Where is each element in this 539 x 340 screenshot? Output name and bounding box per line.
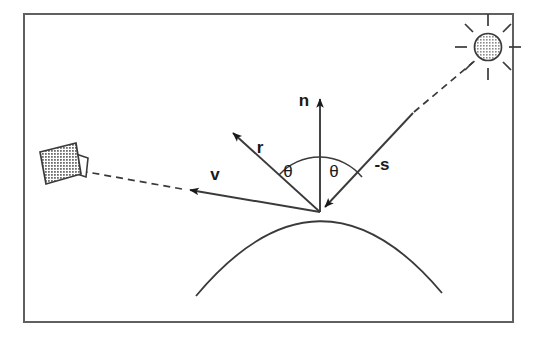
label-r: r — [257, 138, 264, 157]
label-v: v — [210, 165, 220, 184]
diagram-canvas: n r v -s θ θ — [0, 0, 539, 340]
figure-root: n r v -s θ θ — [0, 0, 539, 340]
label-n: n — [299, 91, 309, 110]
label-theta-right: θ — [329, 162, 338, 181]
label-theta-left: θ — [283, 162, 292, 181]
sun-disc — [475, 34, 502, 61]
label-minus-s: -s — [374, 155, 389, 174]
